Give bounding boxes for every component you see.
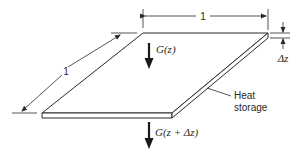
depth-dimension-label: 1: [63, 66, 69, 77]
slab-diagram: 1 1 Δz G(z) G(z + Δz) Heat storage: [0, 0, 296, 163]
flux-out-label: G(z + Δz): [155, 126, 199, 139]
slab-front-edge: [42, 113, 172, 118]
width-dimension-label: 1: [200, 11, 206, 22]
thickness-dimension: [270, 22, 290, 49]
slab-top-face: [42, 33, 268, 113]
flux-in-label: G(z): [156, 43, 176, 56]
heat-storage-leader: [207, 88, 231, 96]
thickness-dimension-label: Δz: [277, 52, 289, 64]
flux-out-arrow-icon: [145, 122, 154, 149]
heat-storage-label-line2: storage: [234, 102, 268, 113]
heat-storage-label-line1: Heat: [234, 90, 255, 101]
